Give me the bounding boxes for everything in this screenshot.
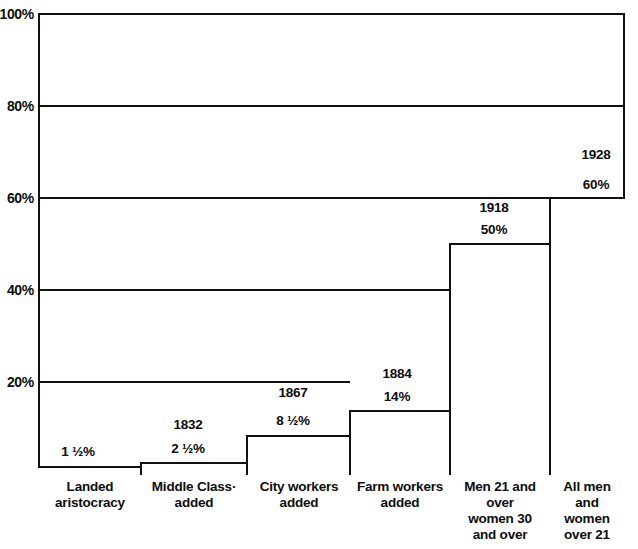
bar-men-21-women-30[interactable]	[450, 243, 550, 475]
gridline-80	[38, 105, 625, 107]
gridline-60	[38, 197, 625, 199]
year-label-farm-workers: 1884	[382, 366, 411, 381]
bar-landed-aristocracy[interactable]	[38, 466, 141, 475]
bar-farm-workers[interactable]	[350, 410, 450, 475]
y-tick-40: 40%	[0, 282, 34, 298]
value-label-men-21-women-30: 50%	[481, 222, 507, 237]
value-label-city-workers: 8 ½%	[276, 413, 310, 428]
gridline-100	[38, 13, 625, 15]
step-riser-4	[449, 243, 451, 475]
y-tick-100: 100%	[0, 6, 34, 22]
gridline-40	[38, 289, 450, 291]
year-label-middle-class: 1832	[173, 417, 202, 432]
step-riser-5	[549, 197, 551, 475]
step-riser-3	[349, 410, 351, 475]
year-label-men-21-women-30: 1918	[479, 200, 508, 215]
gridline-20	[38, 381, 350, 383]
value-label-farm-workers: 14%	[384, 389, 410, 404]
bar-city-workers[interactable]	[247, 435, 350, 475]
y-tick-60: 60%	[0, 190, 34, 206]
y-tick-20: 20%	[0, 374, 34, 390]
value-label-landed-aristocracy: 1 ½%	[61, 444, 95, 459]
step-riser-2	[246, 435, 248, 475]
year-label-all-men-women-21: 1928	[581, 147, 610, 162]
plot-right-edge	[623, 13, 625, 201]
x-label-all-men-women-21: All men and women over 21	[532, 479, 638, 543]
step-riser-1	[140, 462, 142, 475]
step-chart: 100% 80% 60% 40% 20% 1 ½% 2 ½% 8 ½% 14% …	[0, 0, 638, 549]
value-label-middle-class: 2 ½%	[171, 441, 205, 456]
value-label-all-men-women-21: 60%	[583, 177, 609, 192]
bar-middle-class[interactable]	[141, 462, 247, 475]
year-label-city-workers: 1867	[278, 385, 307, 400]
y-axis-line	[38, 13, 40, 475]
y-tick-80: 80%	[0, 98, 34, 114]
bar-all-men-women-21[interactable]	[550, 197, 625, 475]
